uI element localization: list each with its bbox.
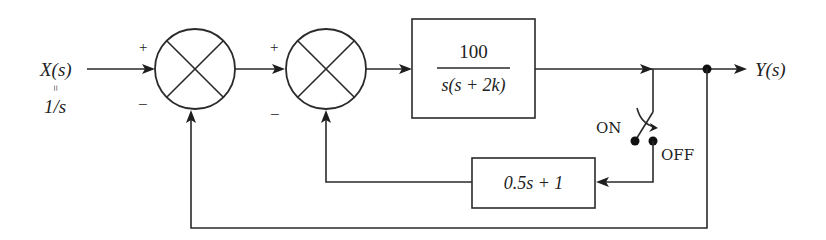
switch-arm[interactable] [635, 112, 653, 141]
junction-2-minus-sign: − [270, 105, 280, 124]
junction-2-plus-sign: + [270, 39, 278, 55]
switch-on-label: ON [596, 119, 621, 137]
switch-on-contact[interactable] [631, 137, 640, 146]
inner-feedback-line-left [326, 118, 472, 182]
forward-block-numerator: 100 [459, 41, 488, 62]
switch-off-label: OFF [661, 146, 694, 164]
summing-junction-1: + − [138, 29, 235, 114]
input-label: X(s) [39, 59, 72, 81]
inner-feedback-line-right [603, 141, 653, 182]
switch-toggle-arrow-icon [649, 123, 658, 132]
forward-transfer-block: 100 s(s + 2k) [412, 19, 535, 118]
feedback-transfer-block: 0.5s + 1 [472, 158, 595, 208]
input-equals-symbol: = [50, 85, 62, 91]
output-label: Y(s) [755, 59, 786, 81]
feedback-switch[interactable]: ON OFF [596, 69, 694, 164]
forward-block-denominator: s(s + 2k) [441, 75, 505, 96]
input-label-group: X(s) = 1/s [39, 59, 72, 117]
summing-junction-2: + − [270, 29, 366, 124]
junction-1-minus-sign: − [138, 95, 148, 114]
block-diagram: X(s) = 1/s + − + − 100 s(s + 2k) Y(s) [0, 0, 826, 240]
input-value: 1/s [44, 96, 66, 117]
junction-1-plus-sign: + [139, 39, 147, 55]
feedback-block-expression: 0.5s + 1 [504, 173, 564, 193]
